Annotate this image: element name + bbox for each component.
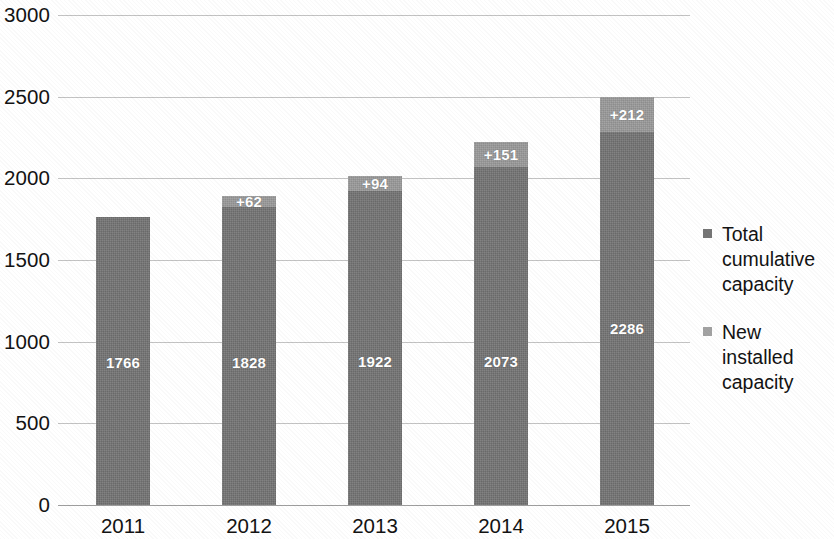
y-tick-label: 1000 (0, 332, 50, 352)
x-tick-label-2013: 2013 (335, 514, 415, 538)
bar-value-label-new-2015: +212 (600, 106, 654, 123)
plot-area: 1766 1828 +62 1922 +94 (58, 15, 690, 505)
legend-swatch-icon (703, 229, 712, 238)
bar-segment-new-2014: +151 (474, 142, 528, 167)
bar-value-label-new-2012: +62 (222, 196, 276, 206)
bar-segment-total-2012: 1828 (222, 207, 276, 506)
bar-group: 1766 1828 +62 1922 +94 (58, 15, 690, 505)
bar-value-label-total-2015: 2286 (600, 320, 654, 337)
legend-item-total-cumulative-capacity[interactable]: Total cumulative capacity (703, 222, 834, 297)
y-tick-label: 2000 (0, 168, 50, 188)
bar-value-label-total-2012: 1828 (222, 354, 276, 371)
y-tick-label: 1500 (0, 250, 50, 270)
y-tick-label: 2500 (0, 87, 50, 107)
x-axis-labels: 2011 2012 2013 2014 2015 (58, 505, 690, 539)
legend-item-label: New installed capacity (722, 320, 834, 395)
legend-swatch-icon (703, 327, 712, 336)
y-axis-labels: 3000 2500 2000 1500 1000 500 0 (0, 15, 50, 505)
stacked-bar-chart: 3000 2500 2000 1500 1000 500 0 1766 (0, 0, 834, 539)
bar-segment-total-2013: 1922 (348, 191, 402, 505)
y-tick-label: 0 (0, 495, 50, 515)
bar-value-label-total-2014: 2073 (474, 353, 528, 370)
bar-segment-total-2011: 1766 (96, 217, 150, 505)
bar-segment-total-2015: 2286 (600, 132, 654, 505)
bar-value-label-new-2014: +151 (474, 146, 528, 163)
x-tick-label-2014: 2014 (461, 514, 541, 538)
y-tick-label: 500 (0, 413, 50, 433)
bar-value-label-total-2011: 1766 (96, 354, 150, 371)
bar-segment-new-2013: +94 (348, 176, 402, 191)
bar-value-label-total-2013: 1922 (348, 353, 402, 370)
x-tick-label-2015: 2015 (587, 514, 667, 538)
bar-segment-new-2015: +212 (600, 97, 654, 132)
bar-value-label-new-2013: +94 (348, 176, 402, 191)
legend-item-label: Total cumulative capacity (722, 222, 834, 297)
chart-legend: Total cumulative capacity New installed … (703, 222, 834, 418)
legend-item-new-installed-capacity[interactable]: New installed capacity (703, 320, 834, 395)
y-tick-label: 3000 (0, 5, 50, 25)
x-tick-label-2012: 2012 (209, 514, 289, 538)
bar-segment-total-2014: 2073 (474, 167, 528, 506)
x-tick-label-2011: 2011 (83, 514, 163, 538)
bar-segment-new-2012: +62 (222, 196, 276, 206)
